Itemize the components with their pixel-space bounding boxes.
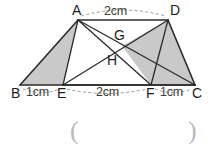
vertex-label-h: H [107,53,117,67]
dimension-label-fc: 1cm [160,86,183,99]
dimension-label-be: 1cm [26,86,49,99]
vertex-label-g: G [114,28,125,42]
vertex-label-b: B [11,86,20,100]
answer-close-paren: ) [188,118,197,144]
answer-open-paren: ( [70,118,79,144]
shaded-quad-gdcf [122,20,195,85]
vertex-label-f: F [146,86,155,100]
vertex-label-d: D [170,3,180,17]
dimension-label-ef: 2cm [96,86,119,99]
vertex-label-c: C [192,86,202,100]
geometry-figure: A D B E F C G H 2cm 1cm 2cm 1cm ( ) [0,0,215,159]
vertex-label-e: E [57,86,66,100]
dimension-label-ad: 2cm [104,5,127,18]
vertex-label-a: A [72,3,81,17]
geometry-canvas [0,0,215,159]
